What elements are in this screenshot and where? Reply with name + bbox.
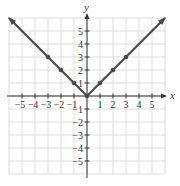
y-tick-label: −1 [72,104,83,115]
graph-absolute-value: −5−4−3−2−112345−5−4−3−2−112345 x y [0,0,180,186]
y-tick-label: 4 [78,39,83,50]
x-tick-label: −4 [28,99,39,110]
data-point [124,55,129,60]
x-tick-label: −2 [54,99,65,110]
y-tick-label: 3 [78,52,83,63]
x-tick-label: 3 [124,99,129,110]
y-axis-label: y [83,1,89,13]
y-tick-label: −2 [72,117,83,128]
y-tick-label: 5 [78,26,83,37]
y-tick-label: −3 [72,130,83,141]
data-point [59,68,64,73]
x-tick-label: −3 [41,99,52,110]
x-tick-label: 5 [150,99,155,110]
x-axis-arrow-icon [161,94,167,99]
y-axis-arrow-icon [85,13,90,19]
x-tick-label: 4 [137,99,142,110]
data-point [98,81,103,86]
y-tick-label: −4 [72,143,83,154]
x-tick-label: 2 [111,99,116,110]
data-point [111,68,116,73]
data-point [85,94,90,99]
x-tick-label: 1 [98,99,103,110]
y-tick-label: 2 [78,65,83,76]
y-tick-label: −5 [72,156,83,167]
x-tick-label: −5 [15,99,26,110]
x-axis-label: x [169,89,175,101]
data-point [46,55,51,60]
data-point [72,81,77,86]
